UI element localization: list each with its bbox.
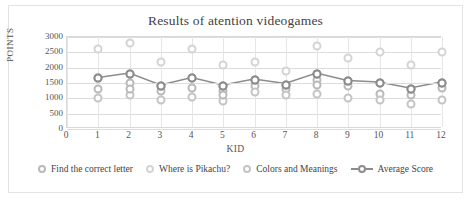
plot-area: [66, 36, 441, 128]
data-point: [250, 57, 259, 66]
x-tick-label: 12: [436, 130, 446, 140]
data-point: [219, 60, 228, 69]
data-point: [375, 48, 384, 57]
chart-legend: Find the correct letterWhere is Pikachu?…: [9, 164, 462, 174]
x-tick-label: 10: [374, 130, 384, 140]
y-tick-label: 0: [59, 123, 64, 133]
average-score-point: [438, 79, 447, 88]
data-point: [219, 91, 228, 100]
legend-item[interactable]: Find the correct letter: [38, 164, 133, 174]
legend-line-marker-icon: [351, 165, 373, 173]
x-tick-label: 3: [157, 130, 162, 140]
average-score-point: [156, 82, 165, 91]
data-point: [438, 48, 447, 57]
data-point: [313, 80, 322, 89]
x-tick-label: 5: [220, 130, 225, 140]
legend-circle-marker-icon: [243, 165, 251, 173]
y-tick-label: 500: [50, 108, 64, 118]
x-axis-tick-labels: 0123456789101112: [66, 130, 441, 144]
data-point: [406, 100, 415, 109]
x-tick-label: 0: [64, 130, 69, 140]
average-score-point: [188, 74, 197, 83]
legend-item[interactable]: Colors and Meanings: [243, 164, 337, 174]
average-score-point: [94, 74, 103, 83]
average-score-polyline: [98, 73, 441, 88]
data-point: [188, 83, 197, 92]
average-score-point: [344, 77, 353, 86]
x-tick-label: 1: [95, 130, 100, 140]
y-tick-label: 3000: [45, 31, 63, 41]
data-point: [250, 88, 259, 97]
legend-label: Find the correct letter: [51, 164, 133, 174]
data-point: [94, 85, 103, 94]
x-axis-title: KID: [9, 144, 462, 154]
data-point: [313, 89, 322, 98]
data-point: [188, 45, 197, 54]
data-point: [94, 94, 103, 103]
data-point: [125, 39, 134, 48]
data-point: [281, 66, 290, 75]
x-tick-label: 11: [405, 130, 414, 140]
chart-card: Results of atention videogames POINTS 30…: [8, 5, 463, 193]
data-point: [125, 85, 134, 94]
legend-label: Colors and Meanings: [256, 164, 337, 174]
y-tick-label: 2000: [45, 62, 63, 72]
data-point: [344, 54, 353, 63]
legend-circle-marker-icon: [38, 165, 46, 173]
y-tick-label: 1000: [45, 92, 63, 102]
data-point: [313, 42, 322, 51]
chart-title: Results of atention videogames: [9, 13, 462, 29]
data-point: [156, 95, 165, 104]
x-tick-label: 4: [189, 130, 194, 140]
legend-label: Where is Pikachu?: [159, 164, 230, 174]
y-tick-label: 2500: [45, 46, 63, 56]
data-point: [406, 60, 415, 69]
average-score-point: [219, 82, 228, 91]
data-point: [281, 91, 290, 100]
average-score-point: [313, 69, 322, 78]
average-score-point: [375, 79, 384, 88]
data-point: [344, 94, 353, 103]
x-tick-label: 2: [126, 130, 131, 140]
average-score-point: [281, 80, 290, 89]
average-score-point: [250, 75, 259, 84]
y-tick-label: 1500: [45, 77, 63, 87]
data-point: [375, 95, 384, 104]
legend-item[interactable]: Average Score: [351, 164, 433, 174]
x-tick-label: 6: [251, 130, 256, 140]
data-point: [438, 95, 447, 104]
x-tick-label: 9: [345, 130, 350, 140]
legend-item[interactable]: Where is Pikachu?: [146, 164, 230, 174]
x-tick-label: 8: [314, 130, 319, 140]
data-point: [94, 45, 103, 54]
legend-label: Average Score: [378, 164, 433, 174]
grid-line-vertical: [411, 37, 412, 127]
average-score-point: [125, 69, 134, 78]
legend-circle-marker-icon: [146, 165, 154, 173]
average-score-point: [406, 85, 415, 94]
y-axis-tick-labels: 300025002000150010005000: [9, 36, 63, 128]
data-point: [156, 57, 165, 66]
data-point: [188, 92, 197, 101]
x-tick-label: 7: [282, 130, 287, 140]
grid-line-vertical: [67, 37, 68, 127]
